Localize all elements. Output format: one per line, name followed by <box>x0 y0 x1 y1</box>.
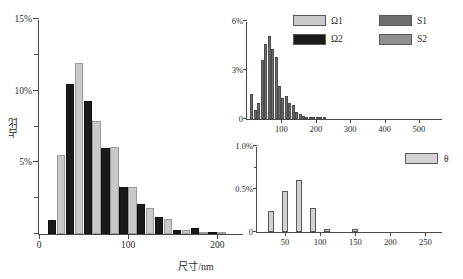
inset-top-y-tick-3 <box>243 69 247 70</box>
main-y-tick-0 <box>34 233 39 234</box>
main-plot-area: 5%10%15% 0100200 <box>38 20 243 235</box>
inset-bottom-x-tick-label-100: 100 <box>314 237 327 247</box>
inset-bottom-x-tick-label-50: 50 <box>281 237 290 247</box>
inset-bottom-bar-90 <box>310 208 316 232</box>
inset-top-y-tick-label-0: 0 <box>239 114 243 124</box>
main-bar-Ω2-60 <box>84 101 92 234</box>
inset-bottom-x-tick-150 <box>355 233 356 236</box>
inset-top-bars-group <box>247 22 442 119</box>
main-bar-Ω1-30 <box>57 155 65 234</box>
inset-bottom-y-tick-0.5 <box>253 188 257 189</box>
main-x-tick-label-200: 200 <box>210 240 224 250</box>
inset-bottom-bar-50 <box>282 191 288 232</box>
inset-bottom-y-tick-0 <box>253 231 257 232</box>
main-bar-Ω2-100 <box>119 187 127 234</box>
inset-bottom-bar-150 <box>352 229 358 232</box>
main-bar-Ω2-20 <box>48 220 56 234</box>
inset-top-x-tick-400 <box>385 120 386 123</box>
main-y-tick-label-15: 15% <box>15 14 32 24</box>
inset-top-x-tick-500 <box>419 120 420 123</box>
inset-top-x-tick-300 <box>350 120 351 123</box>
main-y-tick-12.5 <box>34 54 39 55</box>
inset-bottom-bar-70 <box>296 180 302 232</box>
inset-top-x-tick-label-100: 100 <box>275 124 288 134</box>
main-y-tick-15 <box>33 18 39 19</box>
main-bar-Ω1-170 <box>182 230 190 234</box>
inset-top-x-tick-100 <box>281 120 282 123</box>
inset-top-x-tick-label-300: 300 <box>344 124 357 134</box>
inset-top-y-tick-label-6: 6% <box>232 16 243 26</box>
main-bar-Ω1-210 <box>217 232 225 234</box>
inset-bottom-y-tick-label-0: 0 <box>249 227 253 237</box>
inset-bottom-x-tick-label-250: 250 <box>419 237 432 247</box>
inset-top-x-tick-label-400: 400 <box>378 124 391 134</box>
inset-top-y-tick-label-3: 3% <box>232 65 243 75</box>
inset-bottom-x-tick-50 <box>285 233 286 236</box>
main-bar-Ω2-120 <box>137 204 145 234</box>
main-bar-Ω1-90 <box>110 147 118 234</box>
main-x-tick-0 <box>39 235 40 239</box>
inset-top-x-tick-label-200: 200 <box>309 124 322 134</box>
inset-top-chart: 03%6% 100200300400500 <box>232 18 457 136</box>
main-bar-Ω1-150 <box>164 219 172 234</box>
inset-top-x-tick-200 <box>316 120 317 123</box>
inset-bottom-x-tick-100 <box>320 233 321 236</box>
figure-root: 占比 5%10%15% 0100200 尺寸/nm Ω1S1Ω2S2 03%6%… <box>0 0 463 279</box>
main-y-tick-label-10: 10% <box>15 86 32 96</box>
inset-bottom-x-tick-200 <box>390 233 391 236</box>
main-bar-Ω1-130 <box>146 208 154 234</box>
main-bar-Ω2-200 <box>208 232 216 234</box>
main-x-tick-200 <box>217 235 218 239</box>
inset-bottom-x-tick-label-200: 200 <box>384 237 397 247</box>
inset-bottom-x-tick-250 <box>425 233 426 236</box>
legend-swatch-theta <box>405 153 438 164</box>
main-bar-Ω2-80 <box>101 148 109 234</box>
inset-bottom-y-tick-1 <box>253 145 257 146</box>
main-bar-Ω2-40 <box>66 84 74 235</box>
inset-top-bar-225 <box>323 117 326 119</box>
inset-top-y-tick-0 <box>243 118 247 119</box>
main-y-tick-label-5: 5% <box>19 157 32 167</box>
inset-bottom-y-tick-label-0.5: 0.5% <box>235 184 253 194</box>
main-bar-Ω1-50 <box>75 63 83 234</box>
main-bar-Ω1-110 <box>128 187 136 234</box>
inset-top-plot-area: 03%6% 100200300400500 <box>246 22 442 120</box>
inset-bottom-x-tick-label-150: 150 <box>349 237 362 247</box>
inset-bottom-legend: θ <box>405 153 449 164</box>
main-x-tick-label-100: 100 <box>121 240 135 250</box>
main-bar-Ω2-140 <box>155 217 163 234</box>
inset-bottom-bar-110 <box>324 229 330 232</box>
main-y-tick-10 <box>33 90 39 91</box>
inset-bottom-bar-30 <box>268 211 274 232</box>
legend-label-theta: θ <box>444 154 449 164</box>
main-x-tick-100 <box>128 235 129 239</box>
main-y-axis-label: 占比 <box>6 118 21 138</box>
main-bar-Ω2-180 <box>191 228 199 234</box>
inset-bottom-y-tick-label-1: 1.0% <box>235 141 253 151</box>
inset-bottom-plot-area: 00.5%1.0% 50100150200250 θ <box>256 147 442 233</box>
main-y-tick-2.5 <box>34 197 39 198</box>
inset-top-x-tick-label-500: 500 <box>413 124 426 134</box>
inset-bottom-chart: 00.5%1.0% 50100150200250 θ <box>232 143 457 258</box>
main-bar-Ω1-190 <box>199 232 207 234</box>
main-y-tick-7.5 <box>34 126 39 127</box>
main-x-axis-label: 尺寸/nm <box>178 258 214 273</box>
main-x-tick-label-0: 0 <box>37 240 42 250</box>
inset-bottom-y-tick-minor <box>254 167 257 168</box>
main-bar-Ω1-70 <box>92 121 100 234</box>
main-bars-group <box>39 20 243 234</box>
main-bar-Ω2-160 <box>173 230 181 234</box>
inset-top-y-tick-6 <box>243 20 247 21</box>
main-y-tick-5 <box>33 161 39 162</box>
